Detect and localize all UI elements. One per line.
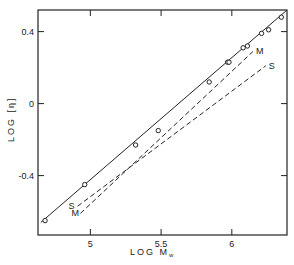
data-point	[43, 218, 47, 222]
y-tick-label: 0.4	[21, 27, 34, 37]
M-line	[80, 51, 253, 213]
x-tick-label: 6	[229, 239, 234, 249]
x-axis-label-subscript: w	[168, 252, 175, 258]
tick-labels: 55.560.40-0.4	[18, 27, 234, 249]
fit-line	[41, 10, 287, 222]
S-label-start: S	[69, 201, 75, 211]
y-axis-label: LOG [η]	[6, 96, 16, 142]
plot-frame	[38, 10, 287, 235]
chart: 55.560.40-0.4 MMSS LOG Mw LOG [η]	[0, 0, 294, 265]
data-point	[266, 28, 270, 32]
line-labels: MMSS	[69, 46, 275, 218]
data-point	[133, 143, 137, 147]
data-point	[227, 60, 231, 64]
M-label-end: M	[256, 46, 264, 56]
y-tick-label: 0	[29, 99, 34, 109]
S-label-end: S	[269, 61, 275, 71]
data-point	[259, 31, 263, 35]
S-line	[78, 66, 266, 206]
data-point	[207, 80, 211, 84]
x-tick-label: 5	[88, 239, 93, 249]
series-lines	[41, 10, 287, 222]
y-tick-label: -0.4	[18, 171, 34, 181]
data-point	[245, 44, 249, 48]
data-point	[82, 182, 86, 186]
data-point	[241, 46, 245, 50]
axis-ticks	[38, 10, 287, 235]
data-point	[279, 15, 283, 19]
data-point	[156, 128, 160, 132]
x-axis-label: LOG Mw	[130, 247, 175, 258]
data-points	[43, 15, 284, 223]
